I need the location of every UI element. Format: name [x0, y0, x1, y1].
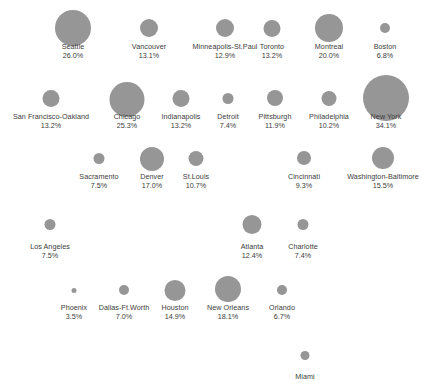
- bubble-point[interactable]: Seattle26.0%: [55, 10, 91, 46]
- bubble-label-stack: New Orleans18.1%: [207, 303, 249, 321]
- bubble-point[interactable]: Detroit7.4%: [223, 93, 234, 104]
- bubble-point[interactable]: Miami: [301, 351, 310, 360]
- bubble-city-label: Seattle: [62, 42, 85, 51]
- bubble-point[interactable]: Pittsburgh11.9%: [267, 90, 283, 106]
- bubble-marker[interactable]: [298, 219, 309, 230]
- bubble-marker[interactable]: [165, 280, 186, 301]
- bubble-marker[interactable]: [140, 19, 158, 37]
- bubble-value-label: 12.9%: [193, 51, 258, 60]
- bubble-value-label: 17.0%: [140, 181, 163, 190]
- bubble-city-label: Denver: [140, 172, 163, 181]
- bubble-marker[interactable]: [140, 147, 164, 171]
- bubble-city-label: Houston: [161, 303, 188, 312]
- bubble-label-stack: Cincinnati9.3%: [288, 172, 320, 190]
- bubble-value-label: 26.0%: [62, 51, 85, 60]
- bubble-marker[interactable]: [315, 14, 343, 42]
- bubble-label-stack: Boston6.8%: [374, 42, 397, 60]
- bubble-marker[interactable]: [55, 10, 91, 46]
- bubble-value-label: 7.4%: [288, 251, 318, 260]
- bubble-point[interactable]: Vancouver13.1%: [140, 19, 158, 37]
- bubble-marker[interactable]: [264, 20, 281, 37]
- bubble-city-label: Indianapolis: [162, 112, 201, 121]
- bubble-point[interactable]: Chicago25.3%: [110, 82, 145, 117]
- bubble-point[interactable]: New Orleans18.1%: [215, 276, 241, 302]
- bubble-city-label: Charlotte: [288, 242, 318, 251]
- bubble-value-label: 13.1%: [132, 51, 166, 60]
- bubble-marker[interactable]: [43, 90, 60, 107]
- bubble-label-stack: Minneapolis-St.Paul12.9%: [193, 42, 258, 60]
- bubble-label-stack: New York34.1%: [371, 112, 402, 130]
- bubble-label-stack: Phoenix3.5%: [61, 303, 87, 321]
- bubble-value-label: 20.0%: [315, 51, 343, 60]
- bubble-value-label: 11.9%: [259, 121, 292, 130]
- bubble-point[interactable]: Cincinnati9.3%: [297, 151, 311, 165]
- bubble-marker[interactable]: [119, 285, 129, 295]
- bubble-point[interactable]: Washington-Baltimore15.5%: [372, 147, 394, 169]
- bubble-point[interactable]: Indianapolis13.2%: [173, 90, 190, 107]
- bubble-value-label: 25.3%: [114, 121, 141, 130]
- bubble-point[interactable]: Denver17.0%: [140, 147, 164, 171]
- bubble-point[interactable]: Phoenix3.5%: [72, 288, 77, 293]
- bubble-point[interactable]: Boston6.8%: [380, 23, 390, 33]
- bubble-point[interactable]: Toronto13.2%: [264, 20, 281, 37]
- bubble-city-label: Detroit: [217, 112, 239, 121]
- bubble-point[interactable]: Los Angeles7.5%: [45, 219, 56, 230]
- bubble-city-label: Phoenix: [61, 303, 87, 312]
- bubble-city-label: New York: [371, 112, 402, 121]
- bubble-marker[interactable]: [301, 351, 310, 360]
- bubble-marker[interactable]: [372, 147, 394, 169]
- bubble-marker[interactable]: [297, 151, 311, 165]
- bubble-label-stack: Chicago25.3%: [114, 112, 141, 130]
- bubble-city-label: Montreal: [315, 42, 343, 51]
- bubble-city-label: Boston: [374, 42, 397, 51]
- bubble-label-stack: Pittsburgh11.9%: [259, 112, 292, 130]
- bubble-label-stack: Houston14.9%: [161, 303, 188, 321]
- bubble-label-stack: Montreal20.0%: [315, 42, 343, 60]
- bubble-marker[interactable]: [173, 90, 190, 107]
- bubble-marker[interactable]: [189, 151, 204, 166]
- bubble-marker[interactable]: [45, 219, 56, 230]
- bubble-point[interactable]: New York34.1%: [363, 75, 409, 121]
- bubble-city-label: Vancouver: [132, 42, 166, 51]
- bubble-label-stack: Los Angeles7.5%: [30, 242, 70, 260]
- bubble-city-label: Atlanta: [241, 242, 264, 251]
- bubble-point[interactable]: Atlanta12.4%: [243, 215, 262, 234]
- bubble-label-stack: Philadelphia10.2%: [309, 112, 349, 130]
- bubble-marker[interactable]: [243, 215, 262, 234]
- bubble-label-stack: Detroit7.4%: [217, 112, 239, 130]
- bubble-marker[interactable]: [215, 276, 241, 302]
- bubble-point[interactable]: Dallas-Ft.Worth7.0%: [119, 285, 129, 295]
- bubble-marker[interactable]: [380, 23, 390, 33]
- bubble-label-stack: San Francisco-Oakland13.2%: [13, 112, 89, 130]
- bubble-chart: Seattle26.0%Vancouver13.1%Minneapolis-St…: [0, 0, 442, 387]
- bubble-marker[interactable]: [223, 93, 234, 104]
- bubble-marker[interactable]: [277, 285, 287, 295]
- bubble-marker[interactable]: [72, 288, 77, 293]
- bubble-point[interactable]: Charlotte7.4%: [298, 219, 309, 230]
- bubble-value-label: 7.5%: [30, 251, 70, 260]
- bubble-point[interactable]: Montreal20.0%: [315, 14, 343, 42]
- bubble-point[interactable]: San Francisco-Oakland13.2%: [43, 90, 60, 107]
- bubble-marker[interactable]: [322, 91, 337, 106]
- bubble-marker[interactable]: [216, 19, 234, 37]
- bubble-city-label: Washington-Baltimore: [347, 172, 418, 181]
- bubble-label-stack: Dallas-Ft.Worth7.0%: [99, 303, 150, 321]
- bubble-city-label: Pittsburgh: [259, 112, 292, 121]
- bubble-marker[interactable]: [267, 90, 283, 106]
- bubble-city-label: Orlando: [269, 303, 295, 312]
- bubble-value-label: 14.9%: [161, 312, 188, 321]
- bubble-point[interactable]: Philadelphia10.2%: [322, 91, 337, 106]
- bubble-city-label: San Francisco-Oakland: [13, 112, 89, 121]
- bubble-city-label: Minneapolis-St.Paul: [193, 42, 258, 51]
- bubble-point[interactable]: Orlando6.7%: [277, 285, 287, 295]
- bubble-city-label: New Orleans: [207, 303, 249, 312]
- bubble-point[interactable]: Sacramento7.5%: [94, 153, 105, 164]
- bubble-city-label: Miami: [295, 372, 314, 381]
- bubble-marker[interactable]: [94, 153, 105, 164]
- bubble-label-stack: Charlotte7.4%: [288, 242, 318, 260]
- bubble-point[interactable]: St.Louis10.7%: [189, 151, 204, 166]
- bubble-label-stack: Indianapolis13.2%: [162, 112, 201, 130]
- bubble-point[interactable]: Minneapolis-St.Paul12.9%: [216, 19, 234, 37]
- bubble-point[interactable]: Houston14.9%: [165, 280, 186, 301]
- bubble-label-stack: Sacramento7.5%: [79, 172, 118, 190]
